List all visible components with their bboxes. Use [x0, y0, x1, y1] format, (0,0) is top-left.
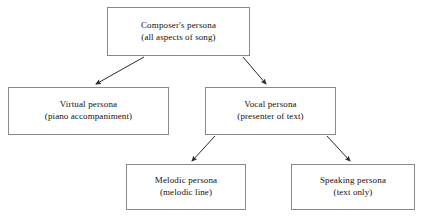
node-speaking-persona[interactable]: Speaking persona (text only) [291, 164, 415, 210]
node-composer-persona-title: Composer's persona [141, 20, 216, 32]
edge-composer-to-virtual [96, 57, 144, 84]
edge-vocal-to-melodic [192, 136, 215, 161]
node-melodic-persona[interactable]: Melodic persona (melodic line) [126, 164, 246, 210]
node-speaking-persona-title: Speaking persona [320, 175, 386, 187]
node-virtual-persona-title: Virtual persona [60, 99, 117, 111]
node-virtual-persona[interactable]: Virtual persona (piano accompaniment) [8, 87, 169, 135]
node-vocal-persona-title: Vocal persona [244, 99, 297, 111]
persona-hierarchy-diagram: Composer's persona (all aspects of song)… [0, 0, 427, 221]
node-melodic-persona-title: Melodic persona [155, 175, 217, 187]
node-virtual-persona-subtitle: (piano accompaniment) [45, 111, 132, 123]
node-speaking-persona-subtitle: (text only) [334, 187, 373, 199]
edge-composer-to-vocal [243, 57, 266, 84]
node-composer-persona-subtitle: (all aspects of song) [141, 32, 215, 44]
node-vocal-persona-subtitle: (presenter of text) [237, 111, 303, 123]
node-composer-persona[interactable]: Composer's persona (all aspects of song) [107, 7, 250, 56]
edge-vocal-to-speaking [327, 136, 350, 161]
node-vocal-persona[interactable]: Vocal persona (presenter of text) [205, 87, 336, 135]
node-melodic-persona-subtitle: (melodic line) [160, 187, 212, 199]
